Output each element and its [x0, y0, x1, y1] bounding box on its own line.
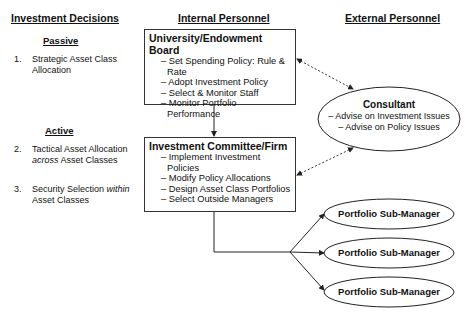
decision-item-3: 3. Security Selection withinAsset Classe… [14, 184, 134, 206]
consultant-node: Consultant – Advise on Investment Issues… [318, 99, 460, 132]
passive-label: Passive [43, 35, 78, 46]
committee-to-submanagers-line [214, 211, 290, 252]
active-label: Active [45, 125, 74, 136]
decision-item-1: 1. Strategic Asset Class Allocation [14, 54, 124, 76]
header-internal-personnel: Internal Personnel [178, 12, 270, 24]
board-consultant-dashed-arrow [297, 59, 353, 89]
decision-item-2: 2. Tactical Asset Allocation across Asse… [14, 144, 134, 166]
board-item: – Set Spending Policy: Rule & Rate [161, 56, 291, 77]
board-item: – Adopt Investment Policy [161, 77, 291, 88]
consultant-item: – Advise on Policy Issues [318, 122, 460, 133]
committee-responsibilities: – Implement Investment Policies – Modify… [149, 152, 291, 205]
board-box: University/Endowment Board – Set Spendin… [144, 29, 296, 105]
sub-manager-1: Portfolio Sub-Manager [324, 208, 454, 219]
header-investment-decisions: Investment Decisions [11, 12, 119, 24]
committee-item: – Select Outside Managers [161, 194, 291, 205]
consultant-item: – Advise on Investment Issues [318, 111, 460, 122]
committee-item: – Modify Policy Allocations [161, 173, 291, 184]
sub-manager-3: Portfolio Sub-Manager [324, 286, 454, 297]
board-title: University/Endowment Board [149, 32, 291, 56]
committee-item: – Implement Investment Policies [161, 152, 291, 173]
committee-item: – Design Asset Class Portfolios [161, 184, 291, 195]
committee-box: Investment Committee/Firm – Implement In… [144, 137, 296, 212]
header-external-personnel: External Personnel [345, 12, 440, 24]
sub-manager-2: Portfolio Sub-Manager [324, 247, 454, 258]
committee-title: Investment Committee/Firm [149, 140, 291, 152]
board-item: – Monitor Portfolio Performance [161, 98, 291, 119]
committee-consultant-dashed-arrow [297, 148, 353, 175]
consultant-title: Consultant [318, 99, 460, 111]
board-item: – Select & Monitor Staff [161, 88, 291, 99]
board-responsibilities: – Set Spending Policy: Rule & Rate – Ado… [149, 56, 291, 120]
